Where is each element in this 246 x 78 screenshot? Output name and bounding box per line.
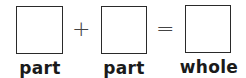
whole-label: whole xyxy=(176,58,242,76)
plus-sign: + xyxy=(72,18,90,40)
second-part-label: part xyxy=(94,59,154,77)
whole-box[interactable] xyxy=(185,5,231,53)
second-part-box[interactable] xyxy=(101,6,147,54)
equals-sign: = xyxy=(156,18,174,40)
first-part-label: part xyxy=(10,59,70,77)
first-part-box[interactable] xyxy=(16,6,63,54)
